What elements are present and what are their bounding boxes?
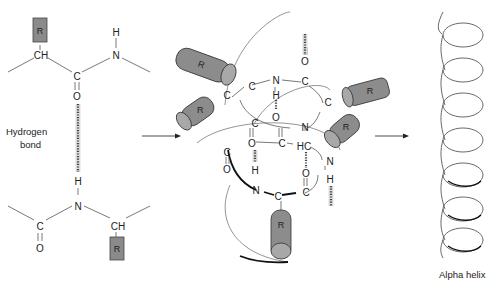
atom-c-a: C [248,81,255,92]
atom-hc: HC [297,141,311,152]
left-panel-peptide-chains: R CH C O N H Hydrogen bond H N C O CH R [6,18,150,260]
atom-h2: H [251,165,258,176]
atom-h1: H [272,90,279,101]
alpha-helix-label: Alpha helix [439,269,486,280]
atom-c-right: C [324,97,331,108]
r-label: R [114,244,121,254]
atom-c-mid1: C [251,118,258,129]
arrow-right-icon [375,134,409,139]
atom-o1: O [272,112,280,123]
hydrogen-bond-label-line2: bond [20,139,41,150]
atom-n3: N [252,185,259,196]
r-group-cylinder-1: R [173,45,239,87]
hydrogen-bond-label-line1: Hydrogen [6,126,47,137]
amide-hydrogen-label: H [112,27,119,38]
carbonyl-oxygen-label: O [73,91,81,102]
atom-o-top: O [301,56,309,67]
atom-c-bot2: C [302,187,309,198]
carbonyl-carbon-label-bottom: C [36,221,43,232]
atom-c-top: C [301,76,308,87]
svg-text:R: R [367,86,374,96]
alpha-helix-formation-diagram: R CH C O N H Hydrogen bond H N C O CH R [0,0,503,282]
r-label: R [37,26,44,36]
amide-nitrogen-label-bottom: N [74,201,81,212]
svg-text:R: R [343,122,350,132]
atom-n1: N [272,75,279,86]
arrow-right-icon [142,134,181,139]
r-group-cylinder-2: R [173,93,217,132]
atom-n4: N [326,156,333,167]
atom-n2: N [301,122,308,133]
amide-hydrogen-label-bottom: H [74,176,81,187]
atom-o2: O [302,168,310,179]
svg-text:R: R [197,105,204,115]
alpha-helix-coil [438,12,483,258]
atom-c-left: C [223,147,230,158]
alpha-carbon-label-bottom: CH [111,221,125,232]
atom-o-left: O [223,164,231,175]
carbonyl-carbon-label: C [73,71,80,82]
r-group-cylinder-3: R [340,77,391,108]
amide-nitrogen-label: N [112,50,119,61]
svg-text:R: R [278,220,285,230]
atom-o-mid1: O [248,138,256,149]
middle-panel-helix-structure: N H O O C C C C N C O C HC C O O H N C C… [173,12,391,262]
atom-h4: H [326,174,333,185]
r-group-cylinder-5: R [271,210,291,259]
atom-c-b: C [223,90,230,101]
atom-c-mid2: C [278,138,285,149]
atom-c-bot: C [274,191,281,202]
alpha-carbon-label: CH [34,50,48,61]
carbonyl-oxygen-label-bottom: O [36,243,44,254]
r-group-cylinder-4: R [321,111,363,151]
